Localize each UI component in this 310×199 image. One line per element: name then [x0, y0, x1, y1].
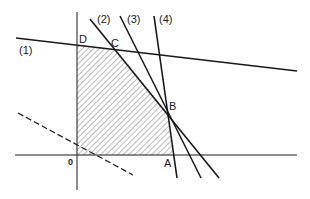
- vertex-label-d: D: [79, 34, 87, 45]
- label-line-4: (4): [159, 14, 172, 25]
- origin-label: 0: [68, 158, 73, 167]
- lp-diagram: [0, 0, 310, 199]
- vertex-label-a: A: [164, 158, 171, 169]
- label-line-3: (3): [127, 14, 140, 25]
- constraint-line-1: [16, 38, 297, 71]
- label-line-2: (2): [97, 14, 110, 25]
- label-line-1: (1): [19, 45, 32, 56]
- vertex-label-b: B: [169, 101, 176, 112]
- vertex-label-c: C: [111, 38, 119, 49]
